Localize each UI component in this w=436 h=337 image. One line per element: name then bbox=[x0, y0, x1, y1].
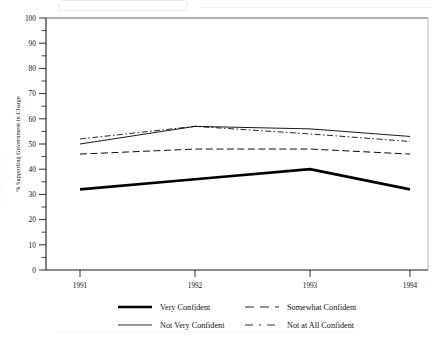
legend-label: Very Confident bbox=[160, 303, 211, 312]
y-axis-tick-labels: 100 90 80 70 60 50 40 30 20 10 0 bbox=[25, 14, 36, 275]
y-axis: 100 90 80 70 60 50 40 30 20 10 0 % Suppo… bbox=[14, 14, 46, 275]
x-tick-label: 1994 bbox=[403, 282, 418, 290]
y-tick-label: 10 bbox=[29, 241, 37, 250]
x-tick-label: 1993 bbox=[303, 282, 318, 290]
y-tick-label: 30 bbox=[29, 190, 37, 199]
plot-background bbox=[46, 18, 428, 270]
legend-label: Somewhat Confident bbox=[287, 303, 357, 312]
x-tick-label: 1992 bbox=[188, 282, 203, 290]
y-tick-label: 60 bbox=[29, 115, 37, 124]
legend-item-very-confident[interactable]: Very Confident bbox=[118, 303, 211, 312]
plot-area bbox=[46, 18, 428, 270]
legend-item-not-very-confident[interactable]: Not Very Confident bbox=[118, 321, 225, 330]
y-tick-label: 70 bbox=[29, 89, 37, 98]
legend-label: Not at All Confident bbox=[287, 321, 355, 330]
legend: Very Confident Somewhat Confident Not Ve… bbox=[118, 303, 357, 330]
y-tick-label: 40 bbox=[29, 165, 37, 174]
y-axis-title: % Supporting Government in Charge bbox=[14, 96, 21, 192]
y-tick-label: 90 bbox=[29, 39, 37, 48]
y-tick-label: 80 bbox=[29, 64, 37, 73]
y-tick-label: 50 bbox=[29, 140, 37, 149]
y-tick-label: 100 bbox=[25, 14, 36, 23]
x-axis: 1991 1992 1993 1994 bbox=[46, 270, 428, 290]
y-tick-label: 20 bbox=[29, 215, 37, 224]
y-tick-label: 0 bbox=[32, 266, 36, 275]
line-chart-figure: 100 90 80 70 60 50 40 30 20 10 0 % Suppo… bbox=[0, 0, 436, 337]
legend-label: Not Very Confident bbox=[160, 321, 225, 330]
legend-item-not-at-all-confident[interactable]: Not at All Confident bbox=[245, 321, 355, 330]
legend-item-somewhat-confident[interactable]: Somewhat Confident bbox=[245, 303, 357, 312]
x-tick-label: 1991 bbox=[73, 282, 88, 290]
